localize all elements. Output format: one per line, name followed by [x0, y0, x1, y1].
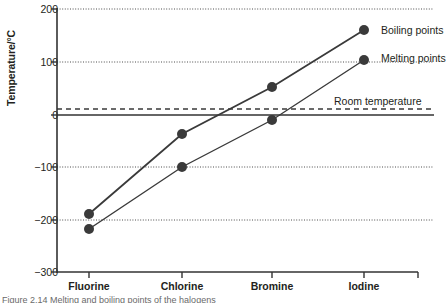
chart-canvas [0, 0, 448, 303]
data-point-melting-bromine [267, 115, 277, 125]
data-point-melting-fluorine [84, 224, 94, 234]
data-point-melting-chlorine [177, 162, 187, 172]
y-axis-ticks [51, 9, 57, 272]
data-point-boiling-iodine [359, 25, 369, 35]
series-line-boiling-points [89, 30, 364, 214]
data-point-boiling-bromine [267, 82, 277, 92]
figure-caption: Figure 2.14 Melting and boiling points o… [2, 296, 448, 303]
x-axis-ticks [89, 272, 418, 278]
data-point-melting-iodine [359, 55, 369, 65]
halogen-melting-boiling-chart: Temperature/°C 200 100 0 −100 −200 −300 … [0, 0, 448, 303]
data-point-boiling-fluorine [84, 209, 94, 219]
data-point-boiling-chlorine [177, 129, 187, 139]
series-line-melting-points [89, 60, 364, 229]
